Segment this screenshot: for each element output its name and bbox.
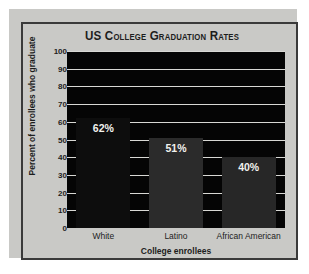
bar-value-label: 51%	[149, 142, 203, 154]
x-tick-label: African American	[212, 231, 285, 241]
y-tick-label: 30	[41, 170, 67, 179]
gridline	[67, 86, 285, 87]
y-tick-label: 10	[41, 206, 67, 215]
y-axis-ticks: 1009080706050403020100	[37, 51, 67, 228]
y-tick-label: 0	[41, 224, 67, 233]
y-tick-label: 60	[41, 117, 67, 126]
bar-value-label: 40%	[222, 161, 276, 173]
chart-title: US College Graduation Rates	[55, 28, 270, 43]
x-axis-ticks: WhiteLatinoAfrican American	[67, 231, 285, 245]
chart-screenshot: US College Graduation Rates Percent of e…	[0, 0, 309, 274]
plot-area: 62%51%40%	[67, 51, 285, 228]
chart-panel: US College Graduation Rates Percent of e…	[9, 9, 297, 258]
gridline	[67, 69, 285, 70]
y-tick-label: 20	[41, 188, 67, 197]
gridline	[67, 104, 285, 105]
x-axis-label: College enrollees	[67, 246, 285, 256]
y-tick-label: 80	[41, 82, 67, 91]
bar-value-label: 62%	[76, 122, 130, 134]
gridline	[67, 51, 285, 52]
y-tick-label: 90	[41, 64, 67, 73]
x-tick-label: Latino	[140, 231, 213, 241]
y-tick-label: 40	[41, 153, 67, 162]
bar-white[interactable]	[76, 118, 130, 228]
x-tick-label: White	[67, 231, 140, 241]
y-tick-label: 50	[41, 135, 67, 144]
y-tick-label: 70	[41, 100, 67, 109]
y-axis-label: Percent of enrollees who graduate	[27, 31, 37, 181]
y-tick-label: 100	[41, 47, 67, 56]
